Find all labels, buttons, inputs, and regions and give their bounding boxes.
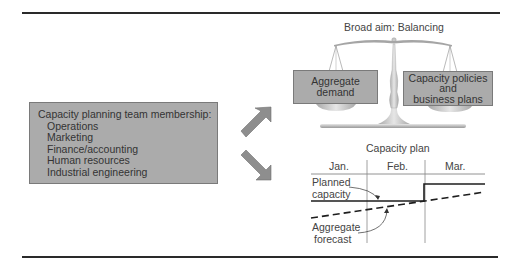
month-feb: Feb. xyxy=(387,160,408,172)
left-pan-line2: demand xyxy=(294,87,377,98)
scale-title: Broad aim: Balancing xyxy=(344,21,444,33)
planned-label-line1: Planned xyxy=(312,176,351,188)
aggregate-demand-box: Aggregate demand xyxy=(293,70,378,104)
capacity-policies-box: Capacity policies and business plans xyxy=(403,71,493,106)
diagram-graphics xyxy=(0,0,524,267)
arrow-down-right-icon xyxy=(241,150,271,180)
forecast-label-line2: forecast xyxy=(312,233,360,245)
month-jan: Jan. xyxy=(329,160,349,172)
right-pan-line3: business plans xyxy=(404,94,492,105)
aggregate-forecast-label: Aggregate forecast xyxy=(312,221,360,245)
forecast-label-line1: Aggregate xyxy=(312,221,360,233)
planned-label-line2: capacity xyxy=(312,188,351,200)
planned-capacity-label: Planned capacity xyxy=(312,176,351,200)
month-mar: Mar. xyxy=(445,160,465,172)
arrow-up-right-icon xyxy=(241,107,271,137)
capacity-plan-title: Capacity plan xyxy=(366,142,430,154)
